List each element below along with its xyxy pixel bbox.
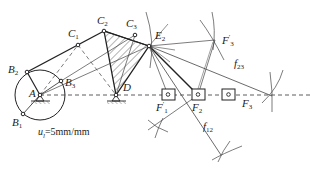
joint-A [38, 93, 42, 97]
label-A: A [29, 88, 36, 99]
label-B1: B1 [12, 117, 22, 130]
joint-B1 [21, 112, 25, 116]
label-f23: f23 [234, 58, 244, 71]
arc-E2 [146, 12, 152, 68]
label-C2: C2 [97, 15, 108, 28]
line-F2-F3p [198, 40, 215, 95]
joint-E2 [147, 44, 151, 48]
joint-C2 [102, 29, 106, 33]
label-C1: C1 [68, 28, 79, 41]
label-E2: E2 [155, 30, 165, 43]
label-B3: B3 [65, 77, 75, 90]
joint-C3 [133, 33, 137, 37]
scale-label: ul=5mm/mm [38, 126, 89, 140]
joint-C1 [76, 43, 80, 47]
joint-B3 [59, 79, 63, 83]
label-F2: F2 [192, 102, 202, 115]
label-f12: f12 [203, 121, 213, 134]
joint-D [114, 93, 118, 97]
label-C3: C3 [126, 18, 137, 31]
label-F3p: F′3 [222, 34, 234, 48]
line-F2-F3p-b [196, 42, 213, 95]
slider-F3 [222, 89, 235, 100]
label-F1p: F′1 [156, 101, 168, 115]
coupler-B2C2 [27, 31, 104, 72]
slider-F2 [192, 89, 205, 100]
joint-B2 [25, 70, 29, 74]
label-F3: F3 [242, 98, 252, 111]
link-E2-F2 [149, 46, 198, 95]
label-B2: B2 [8, 64, 18, 77]
slider-F1p [162, 89, 175, 100]
label-D: D [123, 82, 131, 93]
crank-AB3 [40, 81, 61, 95]
mechanism-diagram [0, 0, 311, 182]
